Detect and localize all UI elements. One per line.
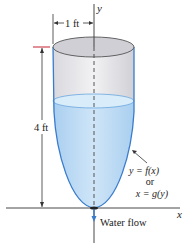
curve-label-gy: x = g(y): [135, 188, 169, 200]
tank-rim-top: [53, 37, 134, 57]
curve-label-or: or: [146, 176, 155, 187]
curve-label-fx: y = f(x): [128, 165, 160, 177]
water-body: [53, 101, 134, 208]
water-flow-label: Water flow: [100, 217, 147, 228]
tank-diagram: y x 1 ft 4 ft y = f(x) or x = g(y) Water…: [0, 0, 184, 245]
arrow-right-icon: [89, 21, 93, 25]
arrow-left-icon: [54, 21, 58, 25]
y-axis-label: y: [96, 2, 102, 14]
arrow-up-icon: [40, 48, 44, 53]
water-surface: [53, 94, 134, 108]
height-dim-label: 4 ft: [34, 122, 48, 133]
x-axis-label: x: [176, 208, 182, 220]
arrow-down-icon: [40, 202, 44, 207]
water-flow-arrow-icon: [92, 216, 97, 222]
width-dim-label: 1 ft: [65, 18, 79, 29]
